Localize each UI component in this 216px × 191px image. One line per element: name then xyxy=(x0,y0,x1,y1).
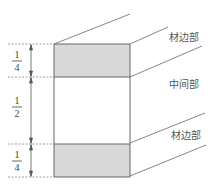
arrow-up-icon xyxy=(30,45,33,50)
arrow-down-icon xyxy=(30,171,33,176)
wood-section-diagram: 1 4 1 2 1 4 材边部 中间部 材边部 xyxy=(0,0,216,191)
svg-text:4: 4 xyxy=(15,162,20,173)
arrow-up-icon xyxy=(30,78,33,83)
dimension-line xyxy=(30,44,33,177)
top-edge-shaded-region xyxy=(54,44,130,77)
svg-text:1: 1 xyxy=(15,95,20,106)
label-top-edge: 材边部 xyxy=(169,31,199,43)
svg-text:2: 2 xyxy=(15,108,20,119)
fraction-top: 1 4 xyxy=(12,49,22,73)
arrow-down-icon xyxy=(30,71,33,76)
svg-text:4: 4 xyxy=(15,62,20,73)
arrow-up-icon xyxy=(30,145,33,150)
fraction-middle: 1 2 xyxy=(12,95,22,119)
bottom-edge-shaded-region xyxy=(54,144,130,177)
label-middle: 中间部 xyxy=(169,78,199,90)
arrow-down-icon xyxy=(30,138,33,143)
svg-text:1: 1 xyxy=(15,49,20,60)
fraction-bottom: 1 4 xyxy=(12,149,22,173)
svg-text:1: 1 xyxy=(15,149,20,160)
label-bottom-edge: 材边部 xyxy=(171,129,201,141)
